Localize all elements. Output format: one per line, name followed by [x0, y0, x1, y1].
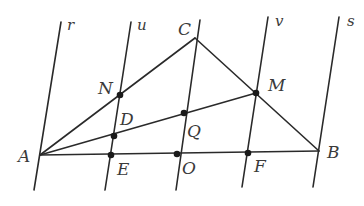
point-e-dot [108, 152, 115, 159]
line-label-r: r [67, 16, 75, 34]
diagram-canvas: ruvsABCNMDQEOF [0, 0, 364, 206]
line-label-v: v [275, 12, 284, 30]
geometry-diagram: ruvsABCNMDQEOF [0, 0, 364, 206]
point-label-e: E [116, 159, 130, 179]
point-label-f: F [253, 156, 267, 176]
point-label-q: Q [187, 121, 201, 141]
point-q-dot [181, 110, 188, 117]
point-o-dot [174, 151, 181, 158]
point-label-a: A [16, 146, 30, 166]
point-label-m: M [267, 75, 286, 95]
line-label-s: s [347, 12, 355, 30]
point-label-d: D [119, 109, 134, 129]
point-d-dot [111, 133, 118, 140]
point-n-dot [117, 92, 124, 99]
segment-am [40, 93, 256, 155]
triangle-segments [40, 38, 319, 155]
point-f-dot [245, 150, 252, 157]
line-label-u: u [137, 16, 147, 34]
point-label-c: C [178, 19, 191, 39]
point-label-n: N [97, 78, 114, 98]
point-m-dot [253, 90, 260, 97]
parallel-line-r [34, 22, 61, 190]
point-label-o: O [182, 158, 196, 178]
point-label-b: B [326, 142, 340, 162]
